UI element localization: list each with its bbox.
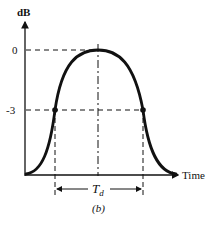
duration-label: Td bbox=[92, 181, 104, 198]
left-3db-point bbox=[52, 107, 58, 113]
pulse-curve bbox=[26, 50, 176, 174]
figure-caption: (b) bbox=[92, 202, 105, 215]
y-axis-label: dB bbox=[17, 6, 31, 18]
pulse-envelope-diagram: dB 0 -3 Time Td (b) bbox=[0, 0, 218, 228]
right-3db-point bbox=[140, 107, 146, 113]
y-tick-minus3: -3 bbox=[6, 104, 16, 116]
y-tick-0: 0 bbox=[12, 44, 18, 56]
x-axis-label: Time bbox=[182, 169, 205, 181]
duration-label-sub: d bbox=[99, 188, 104, 198]
